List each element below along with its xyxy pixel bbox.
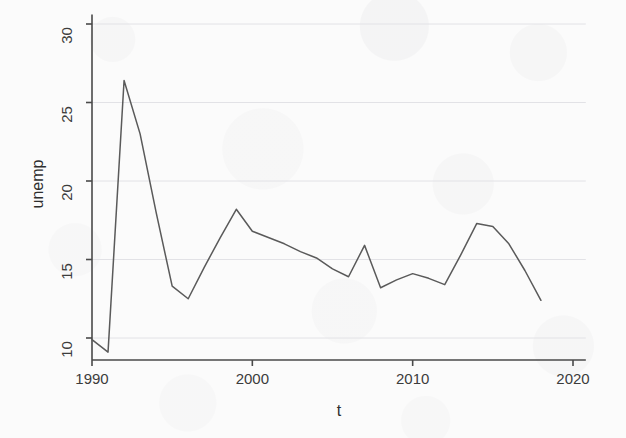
data-line-unemp (92, 81, 541, 353)
y-tick-label: 25 (58, 102, 75, 126)
tick-marks-group (86, 24, 573, 366)
y-tick-label: 15 (58, 259, 75, 283)
x-axis-label: t (337, 402, 341, 420)
gridlines-group (92, 24, 586, 338)
chart-figure: 1990200020102020 1015202530 t unemp (0, 0, 626, 438)
x-tick-label: 2010 (396, 370, 429, 387)
x-tick-label: 2020 (556, 370, 589, 387)
y-tick-label: 10 (58, 338, 75, 362)
axis-lines-group (92, 15, 586, 360)
data-series-group (92, 81, 541, 353)
y-axis-label: unemp (29, 160, 47, 209)
y-tick-label: 30 (58, 24, 75, 48)
x-tick-label: 2000 (236, 370, 269, 387)
x-tick-label: 1990 (75, 370, 108, 387)
y-tick-label: 20 (58, 181, 75, 205)
